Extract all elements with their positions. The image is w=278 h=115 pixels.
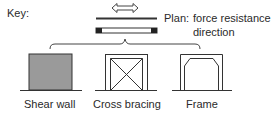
key-label: Key: xyxy=(7,7,29,19)
plan-description-line1: force resistance xyxy=(193,12,271,24)
plan-description-line2: direction xyxy=(193,26,235,38)
plan-label: Plan: xyxy=(164,12,189,24)
double-arrow-icon xyxy=(112,4,138,13)
frame-symbol xyxy=(172,55,232,91)
shear-wall-symbol xyxy=(20,54,82,91)
frame-label: Frame xyxy=(186,98,218,110)
grouping-brace xyxy=(50,39,200,49)
shear-wall-label: Shear wall xyxy=(24,98,75,110)
plan-bar xyxy=(96,28,157,33)
cross-bracing-symbol xyxy=(95,55,157,91)
structural-key-diagram: Key: Plan: force resistance direction Sh… xyxy=(0,0,278,115)
cross-bracing-label: Cross bracing xyxy=(93,98,161,110)
